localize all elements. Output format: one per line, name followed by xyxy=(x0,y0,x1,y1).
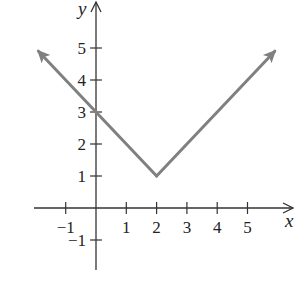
x-axis-label: x xyxy=(284,210,294,231)
y-axis-label: y xyxy=(76,0,87,19)
y-tick-label: 2 xyxy=(78,135,87,154)
y-tick-label: −1 xyxy=(68,231,86,250)
y-tick-label: 4 xyxy=(78,71,87,90)
plot-series xyxy=(38,51,274,176)
y-tick-label: 3 xyxy=(78,103,87,122)
y-tick-label: 5 xyxy=(78,39,87,58)
x-tick-label: 2 xyxy=(152,218,161,237)
x-tick-label: 3 xyxy=(183,218,192,237)
curve-right-ray xyxy=(157,51,275,176)
x-tick-label: 4 xyxy=(213,218,222,237)
chart: −112345 −112345 x y xyxy=(0,0,307,292)
x-tick-label: 5 xyxy=(243,218,252,237)
curve-left-ray xyxy=(38,51,156,176)
y-tick-label: 1 xyxy=(78,167,87,186)
x-tick-label: 1 xyxy=(122,218,131,237)
